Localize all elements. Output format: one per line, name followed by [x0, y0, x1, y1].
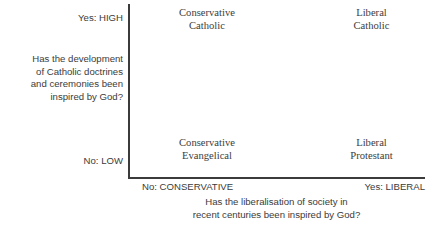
x-axis-tick-right: Yes: LIBERAL — [300, 181, 425, 193]
quadrant-label-top-left: Conservative Catholic — [146, 6, 268, 32]
x-axis-title: Has the liberalisation of society in rec… — [128, 196, 425, 221]
quadrant-diagram: Yes: HIGH No: LOW Has the development of… — [0, 0, 433, 229]
x-axis-line — [128, 177, 425, 179]
x-axis-tick-left: No: CONSERVATIVE — [142, 181, 233, 193]
y-axis-tick-low: No: LOW — [0, 155, 123, 167]
y-axis-title: Has the development of Catholic doctrine… — [0, 53, 123, 103]
quadrant-label-bottom-left: Conservative Evangelical — [146, 136, 268, 162]
y-axis-tick-high: Yes: HIGH — [0, 12, 123, 24]
quadrant-label-bottom-right: Liberal Protestant — [318, 136, 425, 162]
quadrant-label-top-right: Liberal Catholic — [318, 6, 425, 32]
y-axis-line — [128, 4, 130, 179]
